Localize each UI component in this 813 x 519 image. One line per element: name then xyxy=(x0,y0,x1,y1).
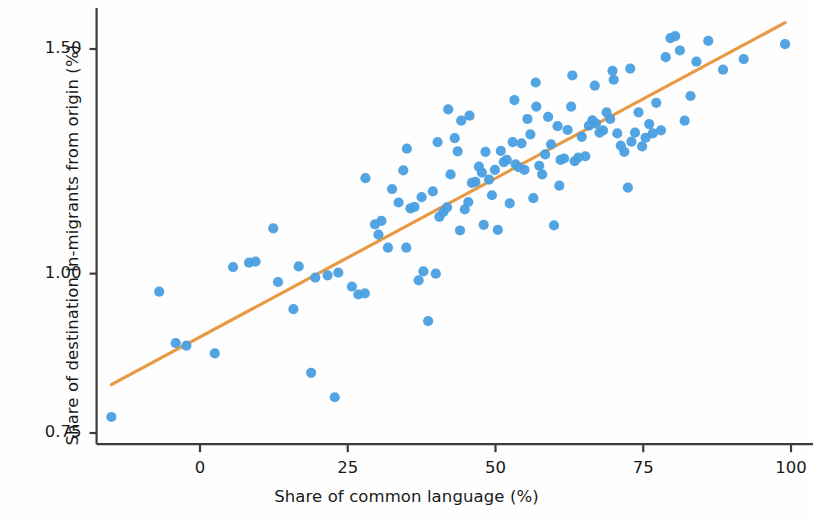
scatter-point xyxy=(633,107,643,117)
scatter-point xyxy=(522,114,532,124)
scatter-point xyxy=(310,272,320,282)
scatter-point xyxy=(347,281,357,291)
scatter-point xyxy=(685,91,695,101)
scatter-point xyxy=(607,66,617,76)
scatter-point xyxy=(288,304,298,314)
scatter-point xyxy=(566,101,576,111)
scatter-point xyxy=(401,243,411,253)
scatter-point xyxy=(691,57,701,67)
scatter-point xyxy=(479,220,489,230)
scatter-point xyxy=(480,147,490,157)
scatter-point xyxy=(428,186,438,196)
scatter-point xyxy=(417,192,427,202)
x-tick-label: 75 xyxy=(603,458,683,477)
scatter-point xyxy=(464,111,474,121)
scatter-point xyxy=(414,275,424,285)
scatter-point xyxy=(718,65,728,75)
scatter-point xyxy=(383,243,393,253)
y-axis-title: Share of destination in-migrants from or… xyxy=(63,46,82,446)
scatter-point xyxy=(543,112,553,122)
scatter-point xyxy=(423,316,433,326)
scatter-point xyxy=(463,197,473,207)
x-tick-label: 100 xyxy=(751,458,813,477)
scatter-point xyxy=(323,270,333,280)
tick-marks xyxy=(90,49,791,452)
scatter-point xyxy=(443,104,453,114)
scatter-point xyxy=(496,146,506,156)
scatter-point xyxy=(442,202,452,212)
scatter-point xyxy=(450,133,460,143)
scatter-point xyxy=(531,77,541,87)
scatter-point xyxy=(519,165,529,175)
scatter-point xyxy=(598,125,608,135)
scatter-point xyxy=(455,225,465,235)
scatter-point xyxy=(680,116,690,126)
scatter-point xyxy=(619,147,629,157)
scatter-point xyxy=(661,52,671,62)
scatter-point xyxy=(626,137,636,147)
scatter-point xyxy=(537,169,547,179)
scatter-point xyxy=(534,161,544,171)
scatter-point xyxy=(508,137,518,147)
scatter-point xyxy=(516,138,526,148)
scatter-point xyxy=(623,182,633,192)
scatter-point xyxy=(525,129,535,139)
x-axis-title: Share of common language (%) xyxy=(0,487,813,506)
scatter-point xyxy=(431,269,441,279)
scatter-point xyxy=(605,114,615,124)
scatter-point xyxy=(505,198,515,208)
scatter-point xyxy=(651,98,661,108)
scatter-point xyxy=(470,177,480,187)
scatter-point xyxy=(577,132,587,142)
scatter-point xyxy=(333,267,343,277)
scatter-point xyxy=(445,169,455,179)
scatter-point xyxy=(106,412,116,422)
scatter-point xyxy=(531,101,541,111)
scatter-point xyxy=(418,266,428,276)
x-tick-label: 25 xyxy=(308,458,388,477)
scatter-point xyxy=(387,184,397,194)
scatter-point xyxy=(580,151,590,161)
scatter-point xyxy=(376,216,386,226)
scatter-point xyxy=(509,95,519,105)
scatter-point xyxy=(567,70,577,80)
plot-canvas xyxy=(0,0,813,519)
scatter-point xyxy=(559,153,569,163)
scatter-point xyxy=(644,119,654,129)
scatter-point xyxy=(630,127,640,137)
scatter-point xyxy=(171,338,181,348)
scatter-point xyxy=(409,202,419,212)
scatter-point xyxy=(552,121,562,131)
scatter-point xyxy=(273,277,283,287)
scatter-point xyxy=(780,39,790,49)
scatter-point xyxy=(675,45,685,55)
scatter-point xyxy=(487,190,497,200)
scatter-point xyxy=(656,125,666,135)
scatter-point xyxy=(432,137,442,147)
axis-lines xyxy=(97,8,813,444)
scatter-point xyxy=(210,348,220,358)
scatter-point xyxy=(268,223,278,233)
scatter-point xyxy=(398,165,408,175)
scatter-point xyxy=(540,149,550,159)
scatter-point xyxy=(306,368,316,378)
x-tick-label: 50 xyxy=(456,458,536,477)
scatter-point xyxy=(402,144,412,154)
scatter-point xyxy=(528,193,538,203)
scatter-point xyxy=(549,220,559,230)
scatter-point xyxy=(546,139,556,149)
scatter-point xyxy=(590,81,600,91)
scatter-point xyxy=(625,63,635,73)
scatter-point xyxy=(609,75,619,85)
scatter-point xyxy=(502,155,512,165)
scatter-plot-figure: 1.501.000.750255075100 Share of destinat… xyxy=(0,0,813,519)
scatter-point xyxy=(563,125,573,135)
scatter-point xyxy=(703,36,713,46)
scatter-point xyxy=(493,225,503,235)
scatter-point xyxy=(484,174,494,184)
scatter-point xyxy=(360,288,370,298)
scatter-point xyxy=(181,341,191,351)
scatter-point xyxy=(490,165,500,175)
scatter-point xyxy=(637,141,647,151)
scatter-point xyxy=(250,256,260,266)
